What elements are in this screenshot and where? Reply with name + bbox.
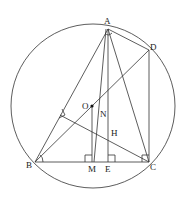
label-B: B — [26, 160, 32, 170]
label-E: E — [105, 164, 111, 174]
segment-AM — [94, 29, 106, 162]
angle-mark-B — [40, 155, 43, 162]
segment-CF — [60, 115, 149, 162]
label-N: N — [100, 109, 107, 119]
label-H: H — [111, 128, 118, 138]
right-angle-M — [85, 155, 92, 162]
label-O: O — [82, 101, 89, 111]
right-angle-E — [108, 155, 115, 162]
label-M: M — [88, 164, 96, 174]
center-point-O — [90, 104, 93, 107]
segment-AB — [35, 29, 108, 162]
label-C: C — [150, 162, 156, 172]
label-A: A — [104, 16, 111, 26]
segment-AC — [108, 29, 149, 162]
geometry-diagram: A D B C O M E H N — [0, 0, 181, 203]
label-D: D — [150, 42, 157, 52]
